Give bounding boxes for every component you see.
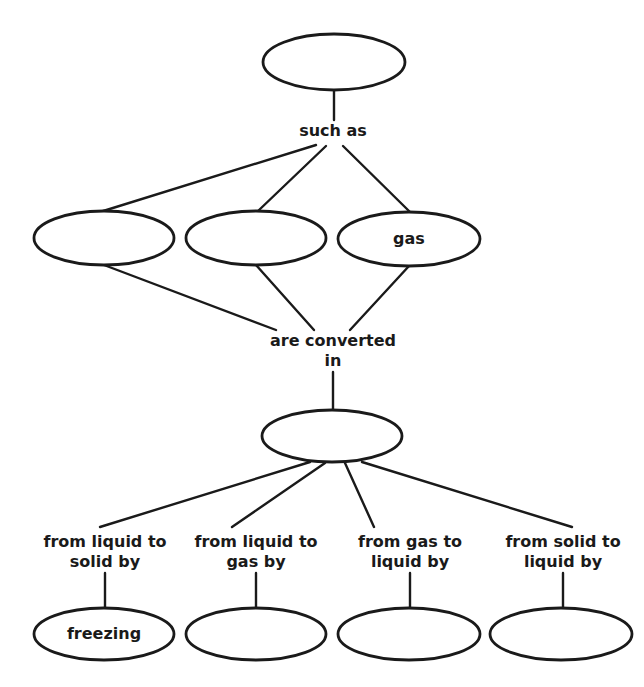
linking-phrase-line: liquid by bbox=[358, 552, 462, 572]
linking-phrase-solid-to-liquid: from solid toliquid by bbox=[505, 532, 620, 572]
concept-node-change2 bbox=[186, 608, 326, 660]
linking-phrase-line: such as bbox=[299, 121, 367, 141]
connector-line bbox=[104, 265, 276, 330]
connector-line bbox=[100, 145, 316, 212]
concept-node-state2 bbox=[186, 211, 326, 265]
connector-line bbox=[343, 146, 410, 212]
linking-phrase-line: in bbox=[270, 351, 396, 371]
linking-phrase-line: liquid by bbox=[505, 552, 620, 572]
linking-phrase-line: from liquid to bbox=[194, 532, 317, 552]
linking-phrase-line: solid by bbox=[43, 552, 166, 572]
connector-line bbox=[345, 463, 374, 527]
concept-node-root bbox=[263, 34, 405, 90]
linking-phrase-line: from liquid to bbox=[43, 532, 166, 552]
connector-line bbox=[362, 462, 572, 527]
linking-phrase-line: from gas to bbox=[358, 532, 462, 552]
linking-phrase-gas-to-liquid: from gas toliquid by bbox=[358, 532, 462, 572]
connector-line bbox=[256, 265, 314, 330]
linking-phrase-liquid-to-gas: from liquid togas by bbox=[194, 532, 317, 572]
concept-node-text: freezing bbox=[67, 624, 141, 644]
concept-node-process bbox=[262, 410, 402, 462]
linking-phrase-line: are converted bbox=[270, 331, 396, 351]
linking-phrase-such-as: such as bbox=[299, 121, 367, 141]
concept-node-text: gas bbox=[393, 229, 425, 249]
concept-node-change4 bbox=[490, 608, 632, 660]
linking-phrase-line: gas by bbox=[194, 552, 317, 572]
linking-phrase-liquid-to-solid: from liquid tosolid by bbox=[43, 532, 166, 572]
linking-phrase-are-converted-in: are convertedin bbox=[270, 331, 396, 371]
connector-line bbox=[258, 146, 326, 211]
concept-map: gasfreezingsuch asare convertedinfrom li… bbox=[0, 0, 644, 687]
linking-phrase-line: from solid to bbox=[505, 532, 620, 552]
connector-line bbox=[350, 266, 409, 330]
concept-node-change3 bbox=[338, 608, 480, 660]
concept-node-state1 bbox=[34, 211, 174, 265]
